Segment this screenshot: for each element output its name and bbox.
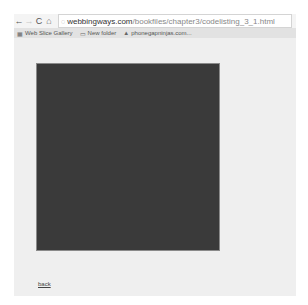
canvas-element <box>36 63 220 251</box>
bookmark-label: New folder <box>88 30 117 36</box>
forward-arrow-icon[interactable]: → <box>24 14 34 28</box>
back-link[interactable]: back <box>38 281 51 287</box>
url-path: /bookfiles/chapter3/codelisting_3_1.html <box>133 17 275 26</box>
address-bar[interactable]: ◌ webbingways.com /bookfiles/chapter3/co… <box>58 14 292 28</box>
bookmark-phonegapninjas[interactable]: ▲ phonegapninjas.com... <box>123 30 191 36</box>
web-slice-icon: ▦ <box>17 30 23 37</box>
bookmarks-bar: ▦ Web Slice Gallery ▭ New folder ▲ phone… <box>14 28 296 38</box>
home-icon[interactable]: ⌂ <box>44 14 54 28</box>
site-icon: ▲ <box>123 30 129 36</box>
reload-icon[interactable]: C <box>34 14 44 28</box>
bookmark-new-folder[interactable]: ▭ New folder <box>80 30 117 37</box>
folder-icon: ▭ <box>80 30 86 37</box>
browser-window: ← → C ⌂ ◌ webbingways.com /bookfiles/cha… <box>14 14 296 296</box>
bookmark-label: Web Slice Gallery <box>25 30 73 36</box>
page-icon: ◌ <box>61 18 65 25</box>
url-host: webbingways.com <box>67 17 132 26</box>
bookmark-web-slice-gallery[interactable]: ▦ Web Slice Gallery <box>17 30 73 37</box>
bookmark-label: phonegapninjas.com... <box>131 30 191 36</box>
back-arrow-icon[interactable]: ← <box>14 14 24 28</box>
page-content: back <box>14 38 296 296</box>
browser-toolbar: ← → C ⌂ ◌ webbingways.com /bookfiles/cha… <box>14 14 296 28</box>
